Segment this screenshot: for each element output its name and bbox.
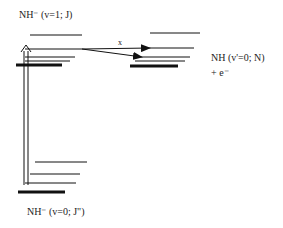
energy-level-diagram xyxy=(0,0,283,228)
neutral-levels xyxy=(130,33,200,66)
neutral-label: NH (v'=0; N) xyxy=(211,52,265,63)
detachment-arrows xyxy=(82,48,194,57)
forbidden-cross-mark: x xyxy=(118,38,122,47)
lower-anion-label: NH⁻ (v=0; J") xyxy=(27,206,85,217)
upper-anion-label: NH⁻ (v=1; J) xyxy=(19,9,72,20)
electron-label: + e⁻ xyxy=(211,67,229,78)
upper-anion-levels xyxy=(16,35,82,65)
